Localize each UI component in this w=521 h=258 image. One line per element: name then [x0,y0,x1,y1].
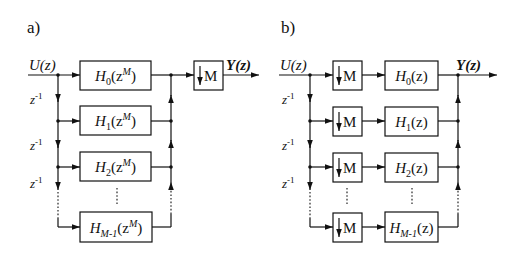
panel-a: a) U(z) Y(z) z-1 z-1 z-1 H0(zM) H1(zM) [27,18,259,242]
panel-a-label: a) [27,18,40,37]
panel-a-input-label: U(z) [29,57,56,74]
svg-text:M: M [204,68,217,84]
filter-block-h2: H2(zM) [80,152,151,181]
panel-b: b) U(z) Y(z) z-1 z-1 z-1 M M [279,18,497,242]
filter-bank-diagram: a) U(z) Y(z) z-1 z-1 z-1 H0(zM) H1(zM) [0,0,521,258]
svg-text:M: M [343,114,356,130]
filter-block-h1: H1(zM) [80,106,151,135]
filter-block-hm-1: HM-1(zM) [80,212,152,242]
panel-b-input-label: U(z) [280,57,307,74]
filter-block-h0: H0(z) [385,61,438,90]
delay-label: z-1 [29,91,43,107]
downsampler-block: M [333,153,362,182]
filter-block-h0: H0(zM) [80,61,151,90]
panel-b-label: b) [281,18,295,37]
delay-label: z-1 [29,137,43,153]
delay-label: z-1 [29,175,43,191]
filter-block-h1: H1(z) [385,107,438,136]
panel-b-output-label: Y(z) [456,57,481,74]
filter-block-h2: H2(z) [385,153,438,182]
output-text: Y(z) [456,57,481,74]
delay-label: z-1 [281,91,295,107]
input-text: U(z) [280,57,307,74]
filter-block-hm-1: HM-1(z) [385,212,438,242]
output-text: Y(z) [226,57,251,74]
input-text: U(z) [29,57,56,74]
svg-text:M: M [343,220,356,236]
svg-text:M: M [343,68,356,84]
delay-label: z-1 [281,175,295,191]
downsampler-block: M [194,61,223,90]
panel-a-output-label: Y(z) [226,57,251,74]
downsampler-block: M [333,61,362,90]
svg-text:M: M [343,160,356,176]
delay-label: z-1 [281,137,295,153]
downsampler-block: M [333,107,362,136]
downsampler-block: M [333,213,362,242]
